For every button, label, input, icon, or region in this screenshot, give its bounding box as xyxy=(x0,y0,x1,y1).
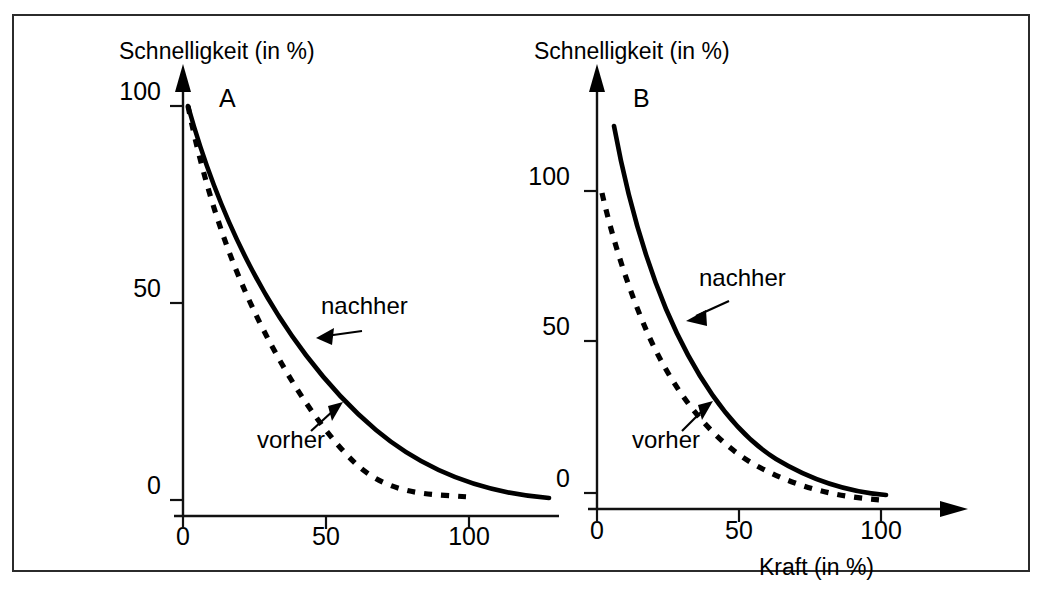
panel-b-y-ticks xyxy=(584,191,597,493)
panel-a-x-ticks xyxy=(183,516,469,529)
panel-a-leader-vorher xyxy=(311,402,343,431)
panel-a-curve-nachher xyxy=(188,106,549,498)
panel-b-x-axis xyxy=(588,501,968,517)
panel-b-curve-nachher xyxy=(614,126,886,495)
chart-panel-b: Schnelligkeit (in %) B 100 50 0 0 50 100… xyxy=(514,16,1044,570)
panel-b-x-ticks xyxy=(597,509,881,522)
panel-a-leader-nachher xyxy=(316,328,362,345)
panel-b-leader-nachher xyxy=(686,301,729,326)
figure-root: Schnelligkeit (in %) A 100 50 0 0 50 100… xyxy=(0,0,1044,589)
panel-b-curve-vorher xyxy=(602,193,881,500)
chart-panel-a: Schnelligkeit (in %) A 100 50 0 0 50 100… xyxy=(14,16,534,570)
panel-b-y-axis xyxy=(589,64,605,509)
panel-b-plot xyxy=(514,16,1044,574)
panel-a-y-ticks xyxy=(170,106,183,500)
panel-a-curve-vorher xyxy=(188,106,469,497)
panel-a-plot xyxy=(14,16,534,574)
panel-a-y-axis xyxy=(175,64,191,516)
figure-frame: Schnelligkeit (in %) A 100 50 0 0 50 100… xyxy=(12,14,1030,572)
